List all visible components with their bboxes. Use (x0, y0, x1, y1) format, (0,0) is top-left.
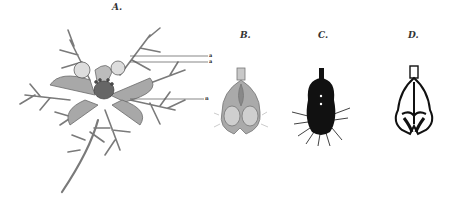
figure-d-nectary-outline (0, 0, 451, 204)
